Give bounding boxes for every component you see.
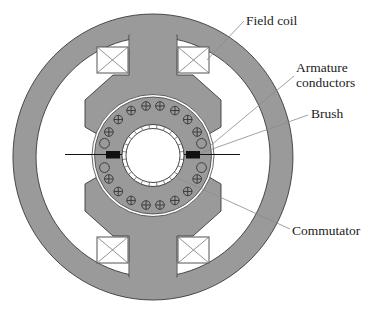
armature-conductor-crossed (127, 106, 136, 115)
armature-conductor-crossed (127, 196, 136, 205)
field-coil-top-right (178, 47, 209, 73)
armature-conductor-crossed (183, 115, 192, 124)
armature-conductor-crossed (142, 201, 151, 210)
label-armature-line2: conductors (296, 75, 355, 90)
armature-conductor-crossed (105, 175, 114, 184)
armature-conductor-crossed (156, 102, 165, 111)
armature-conductor-crossed (193, 128, 202, 137)
label-brush: Brush (311, 106, 344, 121)
label-commutator: Commutator (292, 223, 361, 238)
armature-conductor-crossed (142, 102, 151, 111)
armature-conductor-crossed (171, 196, 180, 205)
armature-conductor-crossed (171, 106, 180, 115)
field-coil-top-left (97, 47, 128, 73)
pole-seam-top (130, 30, 177, 50)
armature-conductor-crossed (156, 201, 165, 210)
dc-machine-diagram: Field coil Armature conductors Brush Com… (0, 0, 367, 310)
label-field-coil: Field coil (246, 13, 298, 28)
armature-conductor-crossed (193, 175, 202, 184)
brush-left (106, 151, 120, 159)
field-coil-bottom-right (178, 237, 209, 263)
pole-seam-bottom (130, 262, 177, 282)
armature-conductor-crossed (114, 187, 123, 196)
armature-conductor-crossed (105, 128, 114, 137)
armature-conductor-crossed (183, 187, 192, 196)
label-armature-line1: Armature (296, 60, 348, 75)
armature-conductor-crossed (114, 115, 123, 124)
commutator-inner (126, 129, 180, 183)
field-coil-bottom-left (97, 237, 128, 263)
brush-right (186, 151, 200, 159)
